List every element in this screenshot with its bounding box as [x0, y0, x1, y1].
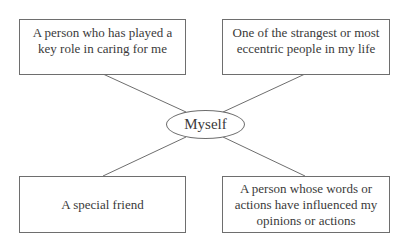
connector-bottom-left [103, 137, 186, 176]
node-label: A person who has played a key role in ca… [33, 25, 173, 57]
node-box-bottom-right: A person whose words or actions have inf… [222, 176, 390, 233]
connector-bottom-right [223, 137, 305, 176]
node-box-bottom-left: A special friend [19, 176, 186, 233]
node-label: A special friend [61, 197, 143, 213]
center-node-myself: Myself [166, 110, 245, 139]
center-label: Myself [184, 116, 227, 133]
node-label: A person whose words or actions have inf… [235, 181, 378, 229]
node-box-top-right: One of the strangest or most eccentric p… [222, 19, 390, 75]
node-box-top-left: A person who has played a key role in ca… [19, 19, 186, 75]
connector-top-left [103, 74, 186, 112]
node-label: One of the strangest or most eccentric p… [233, 25, 380, 57]
connector-top-right [223, 74, 305, 112]
